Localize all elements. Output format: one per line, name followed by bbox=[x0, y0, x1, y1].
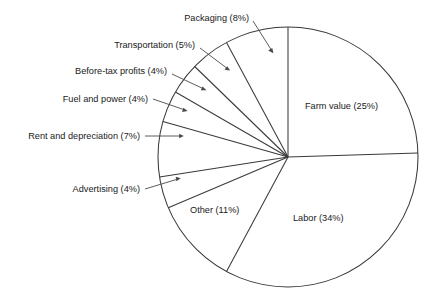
slice-label-before-tax-profits: Before-tax profits (4%) bbox=[75, 66, 167, 76]
slice-label-advertising: Advertising (4%) bbox=[73, 184, 140, 194]
slice-label-packaging: Packaging (8%) bbox=[184, 13, 249, 23]
slice-label-fuel-and-power: Fuel and power (4%) bbox=[63, 94, 148, 104]
slice-label-rent-and-depreciation: Rent and depreciation (7%) bbox=[28, 131, 140, 141]
slice-label-transportation: Transportation (5%) bbox=[114, 40, 195, 50]
pie-chart-figure: Packaging (8%) Transportation (5%) Befor… bbox=[0, 0, 435, 300]
slice-label-other: Other (11%) bbox=[190, 205, 239, 215]
pie-chart-svg: Packaging (8%) Transportation (5%) Befor… bbox=[0, 0, 435, 300]
slice-label-labor: Labor (34%) bbox=[293, 213, 344, 223]
slice-label-farm-value: Farm value (25%) bbox=[305, 101, 378, 111]
